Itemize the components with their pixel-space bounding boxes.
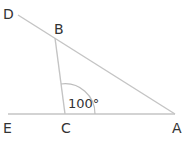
label-D: D [3, 6, 14, 22]
segment-BC [55, 38, 65, 114]
label-E: E [3, 120, 12, 136]
label-C: C [61, 120, 71, 136]
label-B: B [54, 21, 64, 37]
label-A: A [172, 120, 182, 136]
geometry-diagram: D B E C A 100° [0, 0, 188, 144]
angle-label: 100° [68, 96, 99, 111]
